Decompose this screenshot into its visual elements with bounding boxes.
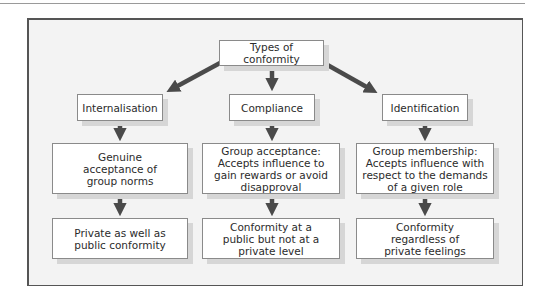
outcome-compliance: Conformity at a public but not at a priv… bbox=[202, 218, 340, 259]
description-text: Genuine acceptance of group norms bbox=[67, 151, 173, 187]
node-compliance: Compliance bbox=[229, 94, 315, 121]
node-identification: Identification bbox=[382, 94, 468, 121]
description-text: Group membership: Accepts influence with… bbox=[361, 145, 489, 193]
root-label: Types of conformity bbox=[224, 41, 319, 65]
outcome-internalisation: Private as well as public conformity bbox=[52, 218, 188, 259]
description-compliance: Group acceptance: Accepts influence to g… bbox=[202, 143, 340, 194]
node-label: Compliance bbox=[241, 102, 303, 114]
node-label: Identification bbox=[391, 102, 460, 114]
node-internalisation: Internalisation bbox=[77, 94, 163, 121]
description-identification: Group membership: Accepts influence with… bbox=[356, 143, 494, 194]
outcome-text: Private as well as public conformity bbox=[65, 227, 175, 251]
description-internalisation: Genuine acceptance of group norms bbox=[52, 143, 188, 194]
outcome-text: Conformity at a public but not at a priv… bbox=[215, 221, 327, 257]
arrow-root-to-internalisation bbox=[172, 63, 220, 89]
outcome-text: Conformity regardless of private feeling… bbox=[375, 221, 475, 257]
arrow-root-to-identification bbox=[324, 63, 372, 90]
node-label: Internalisation bbox=[82, 102, 157, 114]
description-text: Group acceptance: Accepts influence to g… bbox=[207, 145, 335, 193]
outcome-identification: Conformity regardless of private feeling… bbox=[356, 218, 494, 259]
root-node: Types of conformity bbox=[219, 40, 324, 66]
